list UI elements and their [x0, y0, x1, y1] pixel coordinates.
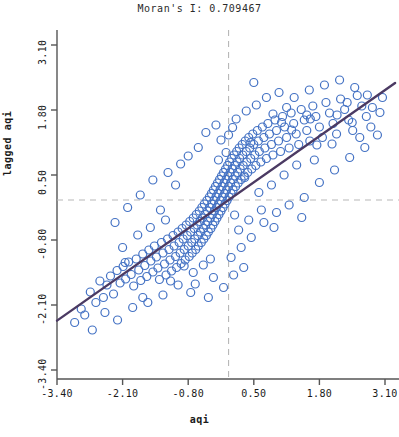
- scatter-point: [363, 91, 371, 99]
- scatter-point: [313, 141, 321, 149]
- scatter-point: [101, 309, 109, 317]
- scatter-point: [237, 244, 245, 252]
- scatter-point: [130, 282, 138, 290]
- y-axis-title: lagged aqi: [2, 111, 13, 176]
- scatter-point: [346, 154, 354, 162]
- scatter-point: [160, 260, 168, 268]
- scatter-point: [343, 99, 351, 107]
- scatter-point: [99, 294, 107, 302]
- scatter-point: [156, 206, 164, 214]
- scatter-point: [199, 261, 207, 269]
- scatter-point: [290, 94, 298, 102]
- scatter-point: [275, 137, 283, 145]
- scatter-point: [293, 161, 301, 169]
- x-tick-label: 3.10: [361, 388, 399, 399]
- scatter-point: [331, 166, 339, 174]
- scatter-point: [191, 280, 199, 288]
- scatter-point: [260, 219, 268, 227]
- scatter-point: [124, 204, 132, 212]
- scatter-point: [303, 127, 311, 135]
- scatter-point: [325, 109, 333, 117]
- scatter-point: [353, 92, 361, 100]
- scatter-point: [247, 234, 255, 242]
- scatter-point: [262, 94, 270, 102]
- scatter-point: [245, 216, 253, 224]
- scatter-point: [351, 84, 359, 92]
- scatter-point: [349, 127, 357, 135]
- scatter-point: [71, 319, 79, 327]
- scatter-point: [174, 281, 182, 289]
- scatter-point: [161, 216, 169, 224]
- y-tick-label: -3.40: [37, 358, 48, 390]
- x-axis-title: aqi: [0, 414, 399, 425]
- scatter-point: [336, 76, 344, 84]
- scatter-point: [285, 201, 293, 209]
- scatter-point: [235, 226, 243, 234]
- scatter-point: [147, 257, 155, 265]
- y-tick-label: 3.10: [37, 40, 48, 65]
- scatter-point: [273, 209, 281, 217]
- scatter-point: [267, 181, 275, 189]
- scatter-point: [368, 104, 376, 112]
- scatter-point: [231, 211, 239, 219]
- scatter-point: [252, 101, 260, 109]
- scatter-point: [146, 224, 154, 232]
- scatter-point: [273, 127, 281, 135]
- scatter-point: [194, 144, 202, 152]
- scatter-point: [114, 316, 122, 324]
- scatter-point: [202, 129, 210, 137]
- scatter-point: [283, 134, 291, 142]
- y-tick-label: -0.80: [37, 228, 48, 260]
- scatter-point: [257, 206, 265, 214]
- scatter-point: [119, 244, 127, 252]
- scatter-point: [149, 176, 157, 184]
- scatter-point: [310, 156, 318, 164]
- scatter-point: [362, 113, 370, 121]
- scatter-point: [309, 102, 317, 110]
- scatter-point: [159, 291, 167, 299]
- x-tick-label: -0.80: [164, 388, 212, 399]
- y-tick-label: 0.50: [37, 170, 48, 195]
- scatter-point: [172, 181, 180, 189]
- y-tick-label: -2.10: [37, 293, 48, 325]
- scatter-point: [144, 299, 152, 307]
- scatter-point: [277, 148, 285, 156]
- scatter-point: [305, 86, 313, 94]
- scatter-point: [328, 140, 336, 148]
- x-tick-label: -2.10: [99, 388, 147, 399]
- y-tick-label: 1.80: [37, 105, 48, 130]
- scatter-point: [139, 294, 147, 302]
- scatter-point: [122, 275, 130, 283]
- scatter-point: [111, 219, 119, 227]
- scatter-point: [217, 136, 225, 144]
- scatter-point: [177, 160, 185, 168]
- scatter-point: [110, 290, 118, 298]
- scatter-point: [255, 189, 263, 197]
- scatter-point: [333, 111, 341, 119]
- scatter-point: [136, 191, 144, 199]
- scatter-point: [129, 304, 137, 312]
- scatter-point: [230, 271, 238, 279]
- x-tick-label: 1.80: [295, 388, 343, 399]
- scatter-point: [285, 144, 293, 152]
- scatter-point: [232, 115, 240, 123]
- scatter-point: [322, 99, 330, 107]
- scatter-point: [315, 123, 323, 131]
- scatter-point: [204, 294, 212, 302]
- x-tick-label: 0.50: [230, 388, 278, 399]
- scatter-point: [373, 131, 381, 139]
- scatter-point: [209, 274, 217, 282]
- scatter-point: [164, 169, 172, 177]
- scatter-point: [287, 109, 295, 117]
- scatter-point: [159, 249, 167, 257]
- scatter-point: [134, 231, 142, 239]
- x-tick-label: -3.40: [33, 388, 81, 399]
- scatter-point: [250, 79, 258, 87]
- scatter-point: [92, 299, 100, 307]
- scatter-point: [227, 254, 235, 262]
- scatter-point: [275, 89, 283, 97]
- scatter-point: [242, 107, 250, 115]
- plot-canvas: [0, 0, 399, 437]
- scatter-point: [189, 269, 197, 277]
- scatter-point: [240, 264, 248, 272]
